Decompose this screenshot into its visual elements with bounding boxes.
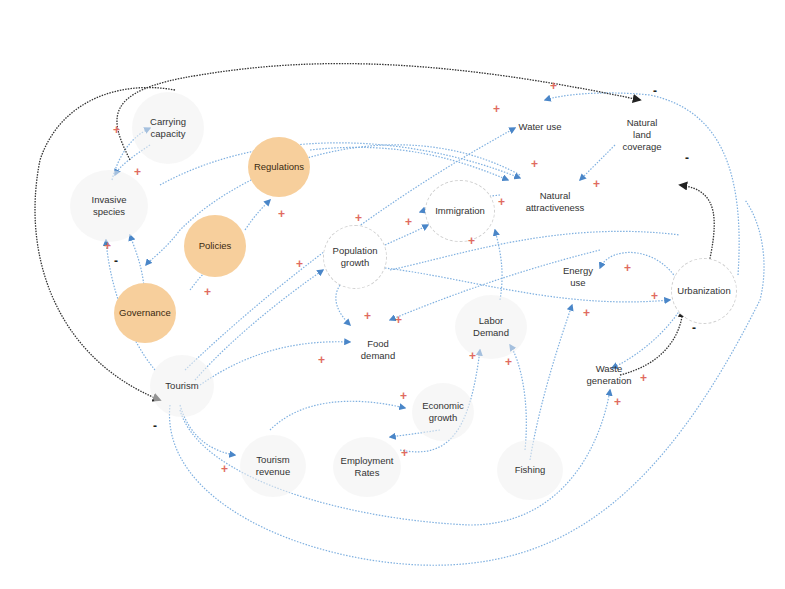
plus-sign: + [550, 80, 557, 92]
positive-links [106, 93, 764, 565]
plus-sign: + [405, 216, 412, 228]
minus-sign: - [114, 255, 118, 267]
node-label: Natural attractiveness [526, 190, 585, 214]
node-tourism-revenue: Tourism revenue [240, 435, 306, 497]
plus-sign: + [296, 258, 303, 270]
node-label: Tourism [165, 380, 198, 392]
plus-sign: + [651, 290, 658, 302]
node-label: Fishing [515, 464, 546, 476]
node-invasive-species: Invasive species [70, 170, 148, 242]
node-label: Natural land coverage [622, 117, 661, 153]
minus-sign: - [153, 420, 157, 432]
node-label: Employment Rates [341, 455, 394, 479]
node-water-use: Water use [510, 107, 570, 147]
plus-sign: + [498, 196, 505, 208]
node-label: Energy use [563, 265, 593, 289]
node-employment-rates: Employment Rates [333, 437, 401, 497]
plus-sign: + [395, 314, 402, 326]
plus-sign: + [468, 235, 475, 247]
minus-sign: - [653, 85, 657, 97]
node-label: Tourism revenue [256, 454, 290, 478]
node-labor-demand: Labor Demand [455, 295, 527, 359]
node-urbanization: Urbanization [671, 258, 737, 324]
node-economic-growth: Economic growth [412, 383, 474, 441]
node-population-growth: Population growth [323, 225, 387, 289]
node-label: Immigration [435, 205, 485, 217]
plus-sign: + [583, 307, 590, 319]
node-carrying-capacity: Carrying capacity [132, 92, 204, 164]
node-natural-land-coverage: Natural land coverage [610, 105, 674, 165]
plus-sign: + [493, 103, 500, 115]
plus-sign: + [505, 356, 512, 368]
node-energy-use: Energy use [548, 257, 608, 297]
node-label: Labor Demand [473, 315, 509, 339]
node-label: Food demand [361, 338, 395, 362]
plus-sign: + [278, 208, 285, 220]
plus-sign: + [221, 463, 228, 475]
plus-sign: + [134, 166, 141, 178]
minus-sign: - [685, 152, 689, 164]
node-natural-attractiveness: Natural attractiveness [515, 182, 595, 222]
node-label: Carrying capacity [150, 116, 186, 140]
node-label: Water use [519, 121, 562, 133]
plus-sign: + [531, 158, 538, 170]
node-label: Urbanization [677, 285, 730, 297]
plus-sign: + [204, 286, 211, 298]
plus-sign: + [614, 396, 621, 408]
node-label: Population growth [333, 245, 378, 269]
node-waste-generation: Waste generation [572, 355, 646, 395]
plus-sign: + [469, 350, 476, 362]
node-label: Policies [199, 240, 232, 252]
plus-sign: + [640, 372, 647, 384]
node-label: Economic growth [422, 400, 464, 424]
node-immigration: Immigration [425, 180, 495, 242]
plus-sign: + [624, 262, 631, 274]
plus-sign: + [113, 124, 120, 136]
causal-loop-diagram [0, 0, 785, 589]
node-label: Waste generation [587, 363, 632, 387]
node-label: Invasive species [92, 194, 127, 218]
node-label: Regulations [254, 161, 304, 173]
node-tourism: Tourism [150, 355, 214, 417]
plus-sign: + [318, 354, 325, 366]
node-regulations: Regulations [248, 137, 310, 197]
minus-sign: - [692, 322, 696, 334]
plus-sign: + [104, 240, 111, 252]
node-label: Governance [119, 307, 171, 319]
plus-sign: + [355, 212, 362, 224]
plus-sign: + [401, 447, 408, 459]
node-fishing: Fishing [497, 440, 563, 500]
node-governance: Governance [114, 283, 176, 343]
plus-sign: + [364, 310, 371, 322]
node-food-demand: Food demand [346, 330, 410, 370]
node-policies: Policies [184, 215, 246, 277]
plus-sign: + [400, 390, 407, 402]
plus-sign: + [593, 178, 600, 190]
